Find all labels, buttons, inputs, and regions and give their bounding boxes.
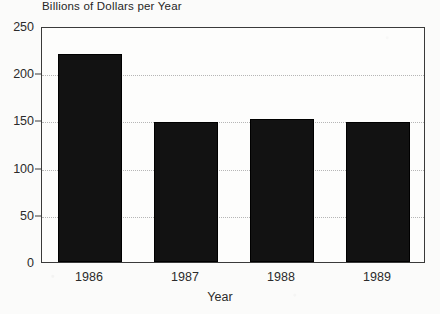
plot-area [41, 27, 425, 263]
y-tick-label-0: 0 [0, 256, 34, 270]
chart-title: Billions of Dollars per Year [42, 0, 182, 12]
y-tick-label-150: 150 [0, 114, 34, 128]
bar-chart-figure: Billions of Dollars per Year 25020015010… [0, 0, 440, 314]
x-tick-label-1987: 1987 [171, 270, 199, 284]
y-tick-mark-50 [35, 215, 41, 216]
y-tick-mark-200 [35, 74, 41, 75]
x-axis-title: Year [0, 290, 440, 304]
x-tick-label-1986: 1986 [75, 270, 103, 284]
bar-1989 [346, 122, 410, 262]
y-tick-mark-150 [35, 121, 41, 122]
bar-1988 [250, 119, 314, 262]
x-tick-label-1989: 1989 [363, 270, 391, 284]
x-tick-label-1988: 1988 [267, 270, 295, 284]
y-tick-label-100: 100 [0, 162, 34, 176]
y-tick-label-50: 50 [0, 209, 34, 223]
bar-1987 [154, 122, 218, 262]
y-tick-label-250: 250 [0, 20, 34, 34]
y-tick-label-200: 200 [0, 67, 34, 81]
y-tick-mark-100 [35, 168, 41, 169]
bar-1986 [58, 54, 122, 262]
